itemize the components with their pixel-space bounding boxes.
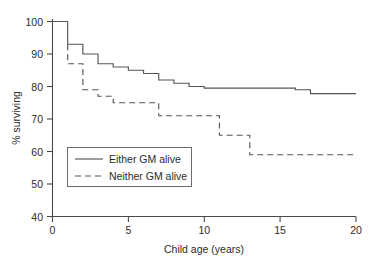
x-tick-label: 10 <box>198 224 210 236</box>
y-tick-label: 100 <box>25 16 43 28</box>
y-axis-title: % surviving <box>10 91 22 145</box>
x-axis-title: Child age (years) <box>164 243 244 255</box>
y-tick-label: 70 <box>31 113 43 125</box>
x-tick-label: 20 <box>350 224 362 236</box>
y-tick-label: 60 <box>31 146 43 158</box>
chart-legend: Either GM alive Neither GM alive <box>68 148 192 187</box>
y-tick-label: 50 <box>31 178 43 190</box>
x-tick-label: 0 <box>50 224 56 236</box>
y-tick-label: 40 <box>31 211 43 223</box>
legend-label-neither-gm-alive: Neither GM alive <box>109 170 187 182</box>
x-tick-label: 15 <box>274 224 286 236</box>
chart-background <box>0 0 375 265</box>
chart-svg: 40 50 60 70 80 90 100 0 5 10 15 20 Child… <box>0 0 375 265</box>
legend-label-either-gm-alive: Either GM alive <box>109 153 181 165</box>
x-tick-label: 5 <box>125 224 131 236</box>
y-tick-label: 90 <box>31 48 43 60</box>
survival-chart-figure: 40 50 60 70 80 90 100 0 5 10 15 20 Child… <box>0 0 375 265</box>
y-tick-label: 80 <box>31 81 43 93</box>
